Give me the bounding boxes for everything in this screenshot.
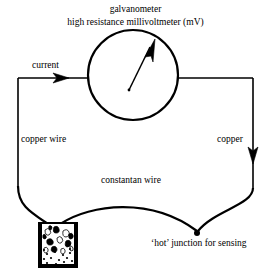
galvanometer-needle-head-icon — [145, 39, 155, 62]
galvanometer-title-label: galvanometer — [0, 5, 271, 15]
current-label: current — [32, 61, 59, 71]
thermocouple-diagram: galvanometer high resistance millivoltme… — [0, 0, 271, 276]
hot-junction-dot-icon — [194, 230, 200, 236]
wire-right-curve-to-junction — [198, 188, 253, 231]
galvanometer-pivot-icon — [128, 89, 131, 92]
copper-wire-left-label: copper wire — [21, 135, 66, 145]
wire-constantan — [62, 207, 197, 231]
wire-left-curve-to-beaker — [18, 186, 48, 224]
hot-junction-label: ‘hot’ junction for sensing — [151, 239, 247, 249]
constantan-wire-label: constantan wire — [101, 176, 161, 186]
galvanometer-circle — [88, 30, 178, 120]
millivoltmeter-subtitle-label: high resistance millivoltmeter (mV) — [0, 18, 271, 28]
copper-right-label: copper — [217, 135, 243, 145]
